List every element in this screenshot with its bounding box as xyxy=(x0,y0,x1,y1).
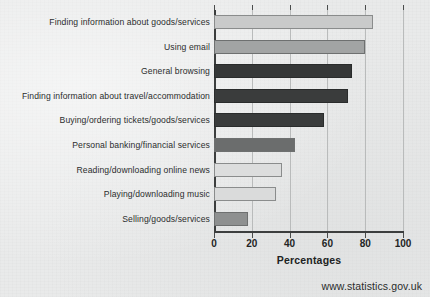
bar-row xyxy=(0,59,430,84)
x-tick-label: 60 xyxy=(307,238,347,249)
x-tick-label: 0 xyxy=(194,238,234,249)
bar-row xyxy=(0,35,430,60)
bar xyxy=(214,138,295,152)
bar xyxy=(214,15,373,29)
bar xyxy=(214,163,282,177)
bar xyxy=(214,113,324,127)
category-label: Finding information about goods/services xyxy=(49,17,210,27)
bar xyxy=(214,187,276,201)
bar-row xyxy=(0,207,430,232)
category-label: Selling/goods/services xyxy=(122,214,210,224)
category-label: Reading/downloading online news xyxy=(76,165,210,175)
category-label: Personal banking/financial services xyxy=(72,140,210,150)
bar xyxy=(214,212,248,226)
category-label: Finding information about travel/accommo… xyxy=(22,91,210,101)
bar xyxy=(214,64,352,78)
x-axis-title: Percentages xyxy=(214,254,404,266)
x-tick-label: 40 xyxy=(270,238,310,249)
bar xyxy=(214,40,365,54)
footer-url: www.statistics.gov.uk xyxy=(321,280,422,292)
category-label: Buying/ordering tickets/goods/services xyxy=(60,115,210,125)
x-tick-label: 100 xyxy=(383,238,423,249)
x-tick-label: 20 xyxy=(232,238,272,249)
category-label: Playing/downloading music xyxy=(104,189,210,199)
bar-row xyxy=(0,133,430,158)
bar xyxy=(214,89,348,103)
bar-row xyxy=(0,182,430,207)
bar-row xyxy=(0,158,430,183)
category-label: General browsing xyxy=(141,66,210,76)
x-tick-label: 80 xyxy=(345,238,385,249)
horizontal-bar-chart: Finding information about goods/services… xyxy=(0,0,430,297)
category-label: Using email xyxy=(164,42,210,52)
